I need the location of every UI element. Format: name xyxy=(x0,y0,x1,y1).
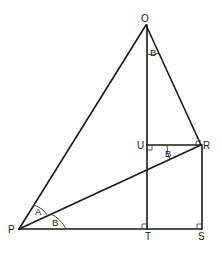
geometry-diagram: O P R S T U A B B B xyxy=(0,0,222,253)
point-label-t: T xyxy=(145,231,151,242)
segment-op xyxy=(19,25,146,229)
angle-label-b-r: B xyxy=(165,148,171,159)
point-label-u: U xyxy=(137,140,144,151)
point-label-o: O xyxy=(141,13,149,24)
angle-label-b-o: B xyxy=(150,47,156,58)
angle-label-a: A xyxy=(35,206,42,217)
segment-pr xyxy=(19,145,201,229)
angle-label-b-p: B xyxy=(52,217,58,228)
point-label-p: P xyxy=(8,224,15,235)
segment-or xyxy=(146,25,201,145)
point-label-s: S xyxy=(198,231,205,242)
point-label-r: R xyxy=(203,140,210,151)
